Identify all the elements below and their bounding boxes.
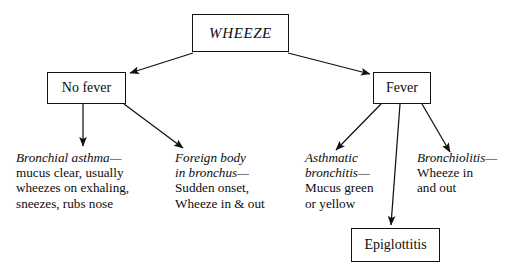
connector-fever-to-bronchiolitis <box>422 104 450 152</box>
leaf-bronchial-asthma-term: Bronchial asthma— <box>16 150 129 165</box>
leaf-bronchiolitis-detail-0: Wheeze in <box>417 165 497 180</box>
connector-fever-to-asthmatic-bronchitis <box>336 104 381 150</box>
node-no-fever: No fever <box>47 72 126 104</box>
node-wheeze-label: WHEEZE <box>209 25 272 42</box>
leaf-bronchial-asthma: Bronchial asthma— mucus clear, usually w… <box>16 150 129 211</box>
leaf-foreign-body: Foreign body in bronchus— Sudden onset, … <box>175 150 265 211</box>
node-fever-label: Fever <box>386 80 418 95</box>
node-epiglottitis: Epiglottitis <box>351 228 440 262</box>
leaf-asthmatic-bronchitis-term-1: bronchitis— <box>305 165 373 180</box>
leaf-bronchiolitis-detail-1: and out <box>417 180 497 195</box>
leaf-asthmatic-bronchitis-detail-1: or yellow <box>305 196 373 211</box>
node-wheeze: WHEEZE <box>192 14 289 52</box>
node-fever: Fever <box>373 72 431 104</box>
leaf-foreign-body-detail-1: Wheeze in & out <box>175 196 265 211</box>
connector-no-fever-to-foreign-body <box>124 104 183 148</box>
connector-wheeze-to-fever <box>288 53 370 74</box>
leaf-foreign-body-detail-0: Sudden onset, <box>175 180 265 195</box>
leaf-bronchial-asthma-detail-1: wheezes on exhaling, <box>16 180 129 195</box>
connector-wheeze-to-no-fever <box>130 53 193 73</box>
leaf-foreign-body-term-0: Foreign body <box>175 150 265 165</box>
leaf-asthmatic-bronchitis-detail-0: Mucus green <box>305 180 373 195</box>
leaf-bronchial-asthma-detail-0: mucus clear, usually <box>16 165 129 180</box>
node-no-fever-label: No fever <box>62 80 111 95</box>
leaf-bronchiolitis: Bronchiolitis— Wheeze in and out <box>417 150 497 196</box>
wheeze-flowchart: WHEEZE No fever Fever Epiglottitis Bronc… <box>0 0 524 273</box>
leaf-bronchiolitis-term: Bronchiolitis— <box>417 150 497 165</box>
node-epiglottitis-label: Epiglottitis <box>364 237 426 252</box>
leaf-foreign-body-term-1: in bronchus— <box>175 165 265 180</box>
leaf-asthmatic-bronchitis-term-0: Asthmatic <box>305 150 373 165</box>
leaf-asthmatic-bronchitis: Asthmatic bronchitis— Mucus green or yel… <box>305 150 373 211</box>
leaf-bronchial-asthma-detail-2: sneezes, rubs nose <box>16 196 129 211</box>
connector-fever-to-epiglottitis <box>391 104 400 225</box>
